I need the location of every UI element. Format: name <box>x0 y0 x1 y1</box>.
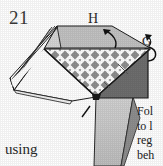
caption-fragment: using <box>5 142 38 157</box>
margin-note-line-3: reg <box>137 133 163 148</box>
fold-tick-mark <box>82 106 90 117</box>
margin-note-line-1: Fol <box>137 104 163 119</box>
hanging-gray-flap <box>94 97 140 166</box>
top-band <box>44 26 150 48</box>
margin-note: Fol to l reg beh <box>137 104 163 166</box>
label-h: H <box>88 12 98 26</box>
margin-note-line-4: beh <box>137 148 163 163</box>
step-number: 21 <box>9 8 29 27</box>
label-g: G <box>142 34 151 47</box>
margin-note-line-2: to l <box>137 119 163 134</box>
figure-page: 21 H G using Fol to l reg beh <box>0 0 163 166</box>
